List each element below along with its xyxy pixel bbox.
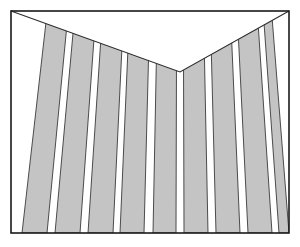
striped-chevron-figure: Chevron notch in a field of converging v… — [0, 0, 300, 247]
figure-container: Chevron notch in a field of converging v… — [0, 0, 300, 247]
